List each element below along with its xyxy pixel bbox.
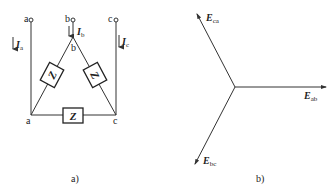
terminal-b-label: b bbox=[65, 13, 70, 24]
impedance-ab: Z bbox=[40, 62, 64, 87]
phasor-bc-label: Ebc bbox=[202, 155, 216, 168]
caption-a: a) bbox=[71, 173, 79, 185]
terminal-c-label: c bbox=[108, 13, 113, 24]
node-b-label: b bbox=[71, 42, 76, 53]
impedance-bc: Z bbox=[83, 62, 107, 87]
current-a-label: Ia bbox=[15, 39, 24, 52]
svg-text:Z: Z bbox=[69, 110, 77, 122]
phasor-ab-label: Eab bbox=[303, 90, 318, 103]
terminal-b-icon bbox=[71, 18, 75, 22]
phasor-ca-label: Eca bbox=[205, 12, 220, 25]
current-c-label: Ic bbox=[121, 36, 129, 49]
diagram-canvas: Z Z Z a b c b a c Ia Ib Ic a) Eca E bbox=[0, 0, 329, 195]
terminal-a-icon bbox=[29, 18, 33, 22]
terminal-c-icon bbox=[114, 18, 118, 22]
terminal-a-label: a bbox=[24, 13, 29, 24]
node-c-label: c bbox=[113, 115, 118, 126]
caption-b: b) bbox=[256, 173, 264, 185]
current-b-label: Ib bbox=[76, 26, 85, 39]
delta-circuit: Z Z Z a b c b a c Ia Ib Ic a) bbox=[13, 13, 129, 185]
phasor-bc-arrow-icon bbox=[195, 87, 235, 164]
node-a-label: a bbox=[26, 115, 31, 126]
phasor-diagram: Eca Eab Ebc b) bbox=[195, 12, 326, 185]
impedance-ca: Z bbox=[63, 108, 83, 123]
